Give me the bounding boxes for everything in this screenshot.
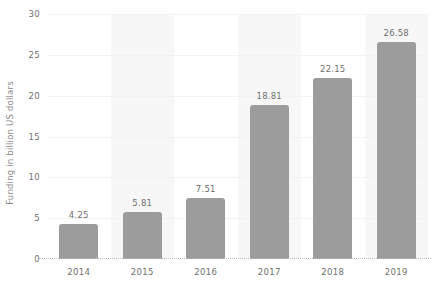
x-axis-tick-label: 2014 (67, 267, 90, 277)
x-axis-tick-label: 2019 (385, 267, 408, 277)
y-axis-tick-label: 25 (29, 50, 40, 60)
bar[interactable]: 5.81 (123, 212, 162, 259)
y-axis-tick-label: 30 (29, 9, 40, 19)
y-axis-title: Funding in billion US dollars (0, 0, 20, 286)
bar-chart: Funding in billion US dollars 0510152025… (0, 0, 436, 286)
bar-value-label: 22.15 (320, 64, 345, 74)
bar[interactable]: 22.15 (313, 78, 352, 259)
bar-group: 26.582019 (365, 14, 429, 259)
bar-group: 18.812017 (238, 14, 302, 259)
bar-group: 5.812015 (111, 14, 175, 259)
bar[interactable]: 18.81 (250, 105, 289, 259)
bar[interactable]: 4.25 (59, 224, 98, 259)
bar-value-label: 26.58 (384, 28, 409, 38)
y-axis-tick-label: 10 (29, 172, 40, 182)
bar[interactable]: 26.58 (377, 42, 416, 259)
bar-value-label: 7.51 (196, 184, 216, 194)
x-axis-tick-label: 2016 (194, 267, 217, 277)
x-axis-line (39, 258, 431, 259)
y-axis-tick-label: 5 (34, 213, 40, 223)
x-axis-tick-label: 2017 (258, 267, 281, 277)
bar-group: 22.152018 (301, 14, 365, 259)
bar-group: 4.252014 (47, 14, 111, 259)
y-axis-tick-label: 15 (29, 132, 40, 142)
x-axis-tick-label: 2015 (131, 267, 154, 277)
bar-group: 7.512016 (174, 14, 238, 259)
y-axis-tick-label: 0 (34, 254, 40, 264)
bar-value-label: 18.81 (257, 91, 282, 101)
y-axis-tick-label: 20 (29, 91, 40, 101)
bar[interactable]: 7.51 (186, 198, 225, 259)
x-axis-tick-label: 2018 (321, 267, 344, 277)
bar-value-label: 4.25 (69, 210, 89, 220)
bar-value-label: 5.81 (132, 198, 152, 208)
plot-area: 051015202530 4.2520145.8120157.51201618.… (47, 14, 428, 259)
